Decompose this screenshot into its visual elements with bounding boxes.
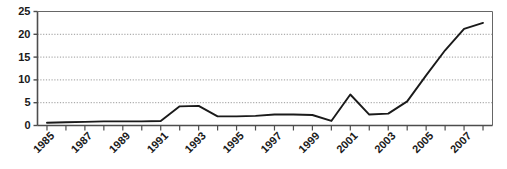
data-series-line [47,23,483,123]
x-tick-label: 1989 [106,129,132,155]
x-tick-label: 2003 [372,129,398,155]
chart-canvas: 0510152025 19851987198919911993199519971… [0,0,507,169]
x-tick-label: 1985 [31,129,57,155]
y-tick-label: 5 [24,96,30,108]
x-tick-label: 1993 [182,129,208,155]
x-tick-label: 1987 [69,129,95,155]
y-tick-label: 15 [18,51,30,63]
x-tick-label: 2005 [410,129,436,155]
x-tick-label: 1991 [144,129,170,155]
gridlines-group [38,34,493,102]
plot-frame [38,12,493,126]
line-chart: 0510152025 19851987198919911993199519971… [0,0,507,169]
x-axis-tick-labels: 1985198719891991199319951997199920012003… [31,129,474,155]
x-tick-label: 1997 [258,129,284,155]
y-tick-label: 10 [18,73,30,85]
x-tick-label: 1999 [296,129,322,155]
y-axis-tick-labels: 0510152025 [18,5,30,131]
y-tick-label: 20 [18,28,30,40]
y-tick-label: 0 [24,119,30,131]
x-tick-label: 2007 [448,129,474,155]
series-line [47,23,483,123]
y-tick-label: 25 [18,5,30,17]
x-tick-label: 1995 [220,129,246,155]
x-tick-label: 2001 [334,129,360,155]
